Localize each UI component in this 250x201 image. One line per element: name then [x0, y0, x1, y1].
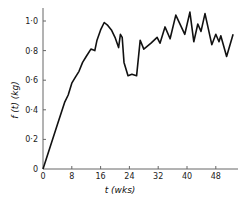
axes: 081624324048 00·20·40·60·81·0 — [25, 8, 238, 181]
y-tick-label: 0·6 — [25, 76, 38, 85]
x-tick-label: 16 — [96, 172, 106, 181]
y-tick-label: 0·8 — [25, 47, 38, 56]
y-axis-title: f (t) (kg) — [10, 81, 20, 118]
x-tick-label: 24 — [124, 172, 134, 181]
y-tick-label: 0·4 — [25, 106, 38, 115]
x-tick-label: 0 — [40, 172, 45, 181]
y-tick-label: 0 — [33, 165, 38, 174]
line-chart: 081624324048 00·20·40·60·81·0 t (wks) f … — [0, 0, 250, 201]
x-ticks: 081624324048 — [40, 166, 220, 181]
x-axis-title: t (wks) — [105, 185, 136, 195]
x-tick-label: 32 — [153, 172, 163, 181]
data-series-line — [43, 12, 233, 169]
y-tick-label: 1·0 — [25, 17, 38, 26]
x-tick-label: 8 — [69, 172, 74, 181]
x-tick-label: 40 — [182, 172, 192, 181]
y-tick-label: 0·2 — [25, 135, 38, 144]
x-tick-label: 48 — [211, 172, 221, 181]
